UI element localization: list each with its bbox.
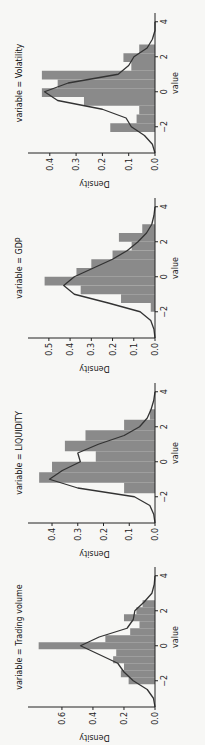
y-tick-label: 0.1 xyxy=(130,343,139,356)
histogram-bar xyxy=(91,259,155,268)
facet-title: variable = GDP xyxy=(15,237,24,298)
histogram-bar xyxy=(81,286,155,295)
y-axis-label: Density xyxy=(79,549,110,558)
histogram-bar xyxy=(136,607,155,614)
x-tick-label: −2 xyxy=(160,675,169,687)
histogram-bar xyxy=(85,430,155,441)
y-tick-label: 0.1 xyxy=(125,528,134,541)
y-tick-label: 0.1 xyxy=(125,158,134,171)
histogram-bar xyxy=(116,649,155,656)
y-tick-label: 0.4 xyxy=(46,158,55,171)
y-tick-label: 0.6 xyxy=(58,712,67,725)
facet-title: variable = Volatility xyxy=(15,43,24,122)
histogram-bar xyxy=(119,233,155,242)
y-tick-label: 0.4 xyxy=(89,712,98,725)
facet-0: variable = Trading volume−20240.00.20.40… xyxy=(15,567,180,742)
y-tick-label: 0.5 xyxy=(45,343,54,356)
y-tick-label: 0.2 xyxy=(120,712,129,725)
facet-title: variable = Trading volume xyxy=(15,584,24,690)
y-tick-label: 0.3 xyxy=(74,528,83,541)
x-tick-label: 0 xyxy=(160,89,169,94)
x-tick-label: 2 xyxy=(160,424,169,429)
y-tick-label: 0.2 xyxy=(100,528,109,541)
x-tick-label: 4 xyxy=(160,389,169,394)
histogram-bar xyxy=(151,303,155,312)
histogram-bar xyxy=(124,663,155,670)
histogram-bar xyxy=(58,80,155,89)
histogram-bar xyxy=(113,656,155,663)
histogram-bar xyxy=(123,53,155,62)
x-tick-label: 0 xyxy=(160,274,169,279)
histogram-bar xyxy=(96,451,155,462)
facet-1: variable = LIQUIDITY−20240.00.10.20.30.4… xyxy=(15,383,180,558)
y-tick-label: 0.4 xyxy=(48,528,57,541)
y-tick-label: 0.4 xyxy=(66,343,75,356)
histogram-bar xyxy=(137,115,155,124)
y-axis-label: Density xyxy=(79,364,110,373)
histogram-bar xyxy=(124,483,155,494)
x-tick-label: 0 xyxy=(160,643,169,648)
histogram-bar xyxy=(139,106,155,115)
x-tick-label: 2 xyxy=(160,608,169,613)
y-tick-label: 0.2 xyxy=(109,343,118,356)
x-tick-label: 2 xyxy=(160,239,169,244)
x-tick-label: 4 xyxy=(160,573,169,578)
facet-title: variable = LIQUIDITY xyxy=(15,411,24,495)
histogram-bar xyxy=(139,621,155,628)
histogram-bar xyxy=(42,88,155,97)
histogram-bar xyxy=(132,242,155,251)
histogram-bar xyxy=(39,642,155,649)
y-axis-label: Density xyxy=(79,733,110,742)
y-tick-label: 0.3 xyxy=(87,343,96,356)
histogram-bar xyxy=(76,268,155,277)
histogram-bar xyxy=(131,62,155,71)
y-tick-label: 0.0 xyxy=(151,343,160,356)
histogram-bar xyxy=(84,97,155,106)
histogram-bar xyxy=(124,614,155,621)
facet-3: variable = Volatility−20240.00.10.20.30.… xyxy=(15,13,180,188)
x-axis-label: value xyxy=(171,626,180,648)
histogram-bar xyxy=(105,635,155,642)
rotated-figure: variable = Trading volume−20240.00.20.40… xyxy=(0,0,205,745)
y-axis-label: Density xyxy=(79,179,110,188)
y-tick-label: 0.2 xyxy=(98,158,107,171)
x-tick-label: 4 xyxy=(160,19,169,24)
x-tick-label: −2 xyxy=(160,491,169,503)
y-tick-label: 0.3 xyxy=(72,158,81,171)
histogram-bar xyxy=(130,628,155,635)
y-tick-label: 0.0 xyxy=(151,528,160,541)
histogram-bar xyxy=(52,462,155,473)
histogram-bar xyxy=(45,277,155,286)
facet-histogram-figure: variable = Trading volume−20240.00.20.40… xyxy=(0,0,205,745)
x-axis-label: value xyxy=(171,72,180,94)
histogram-bar xyxy=(124,420,155,431)
facet-2: variable = GDP−20240.00.10.20.30.40.5val… xyxy=(15,198,180,373)
histogram-bar xyxy=(121,294,155,303)
x-axis-label: value xyxy=(171,442,180,464)
x-tick-label: 0 xyxy=(160,459,169,464)
x-tick-label: −2 xyxy=(160,306,169,318)
x-tick-label: 4 xyxy=(160,204,169,209)
y-tick-label: 0.0 xyxy=(151,712,160,725)
x-tick-label: 2 xyxy=(160,54,169,59)
x-axis-label: value xyxy=(171,257,180,279)
y-tick-label: 0.0 xyxy=(151,158,160,171)
histogram-bar xyxy=(65,441,155,452)
x-tick-label: −2 xyxy=(160,121,169,133)
